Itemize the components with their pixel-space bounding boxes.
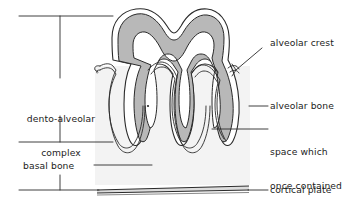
label-alveolar-crest: alveolar crest bbox=[270, 37, 334, 48]
label-cortical-plate: cortical plate bbox=[270, 184, 331, 195]
cortical-plate-band bbox=[97, 186, 249, 195]
label-dento-alveolar-complex-line1: dento-alveolar bbox=[2, 113, 120, 124]
label-alveolar-bone: alveolar bone bbox=[270, 100, 334, 111]
pulp-detail-mark bbox=[147, 105, 149, 107]
label-periodontal-space-line1: space which bbox=[270, 146, 342, 157]
label-dento-alveolar-complex-line2: complex bbox=[2, 147, 120, 158]
dento-alveolar-diagram: dento-alveolar complex basal bone alveol… bbox=[0, 0, 349, 207]
label-basal-bone: basal bone bbox=[23, 160, 74, 171]
